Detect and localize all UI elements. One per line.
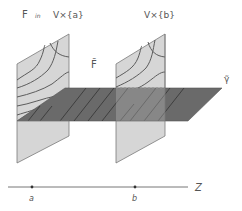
label-point-a: a xyxy=(29,194,34,203)
label-F: F xyxy=(22,9,28,20)
fiber-diagram: F in V×{a} V×{b} F̃ γ̃ Z a b xyxy=(0,0,242,211)
left-plane-bottom xyxy=(17,121,69,163)
right-plane-bottom xyxy=(116,121,165,163)
label-set-a: V×{a} xyxy=(53,10,84,20)
right-plane-overlap xyxy=(116,88,165,121)
label-gamma-tilde: γ̃ xyxy=(224,74,230,84)
label-point-b: b xyxy=(132,194,137,203)
point-b-marker xyxy=(134,186,137,189)
label-in: in xyxy=(35,12,41,19)
label-set-b: V×{b} xyxy=(144,10,175,20)
label-F-tilde: F̃ xyxy=(91,58,97,70)
z-axis xyxy=(8,186,188,189)
label-axis-z: Z xyxy=(194,182,203,193)
point-a-marker xyxy=(31,186,34,189)
